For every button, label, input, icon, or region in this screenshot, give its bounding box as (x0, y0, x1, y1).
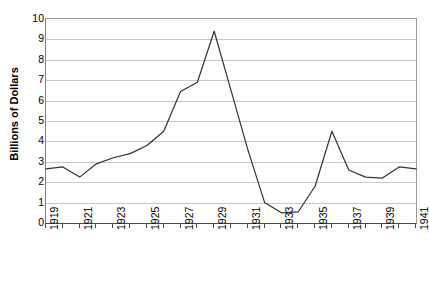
y-axis-title: Billions of Dollars (0, 0, 28, 228)
x-tick-label: 1923 (105, 228, 119, 278)
line-chart-figure: Billions of Dollars 109876543210 1919192… (0, 0, 429, 282)
x-tick-label: 1935 (307, 228, 321, 278)
plot-area (45, 18, 417, 224)
y-tick-label: 9 (38, 33, 44, 44)
x-tick-label-text: 1923 (116, 207, 127, 230)
x-tick-label: 1941 (408, 228, 422, 278)
x-tick-label: 1939 (374, 228, 388, 278)
x-tick-label: 1919 (38, 228, 52, 278)
y-tick-label: 3 (38, 156, 44, 167)
x-tick-label-text: 1941 (419, 207, 429, 230)
x-tick-label: 1929 (206, 228, 220, 278)
x-tick-label-text: 1931 (251, 207, 262, 230)
y-tick-label: 0 (38, 217, 44, 228)
x-tick-label-text: 1925 (150, 207, 161, 230)
x-tick-label: 1931 (240, 228, 254, 278)
x-tick-label-text: 1937 (352, 207, 363, 230)
x-tick-label-text: 1929 (217, 207, 228, 230)
y-tick-label: 8 (38, 54, 44, 65)
x-tick-label: 1937 (341, 228, 355, 278)
x-tick-label: 1925 (139, 228, 153, 278)
y-axis-title-label: Billions of Dollars (8, 67, 20, 161)
y-tick-label: 5 (38, 115, 44, 126)
y-tick-label: 2 (38, 176, 44, 187)
x-tick-label-text: 1921 (83, 207, 94, 230)
y-tick-label: 6 (38, 94, 44, 105)
y-tick-label: 7 (38, 74, 44, 85)
x-tick-label-text: 1927 (184, 207, 195, 230)
x-tick-label: 1933 (273, 228, 287, 278)
y-tick-label: 4 (38, 135, 44, 146)
x-axis-tick-labels: 1919192119231925192719291931193319351937… (0, 228, 429, 282)
x-tick-label-text: 1919 (49, 207, 60, 230)
data-series-line (46, 19, 416, 223)
x-tick-label-text: 1935 (318, 207, 329, 230)
x-tick-label: 1921 (72, 228, 86, 278)
x-tick-label-text: 1933 (284, 207, 295, 230)
y-tick-label: 1 (38, 196, 44, 207)
x-tick-label-text: 1939 (385, 207, 396, 230)
x-tick-label: 1927 (173, 228, 187, 278)
y-tick-label: 10 (32, 13, 44, 24)
series-polyline (46, 31, 416, 213)
